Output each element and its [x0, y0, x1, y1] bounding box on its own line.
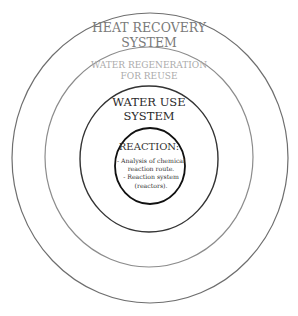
reaction-item-3: - Reaction system — [116, 173, 186, 181]
reaction-item-1: - Analysis of chemical — [116, 157, 186, 165]
heat-recovery-label: HEAT RECOVERY SYSTEM — [0, 20, 298, 50]
heat-recovery-line-2: SYSTEM — [0, 35, 298, 50]
water-regeneration-line-1: WATER REGENERATION — [0, 60, 298, 71]
reaction-items: - Analysis of chemical reaction route. -… — [116, 157, 186, 190]
reaction-item-4: (reactors). — [116, 182, 186, 190]
water-regeneration-line-2: FOR REUSE — [0, 71, 298, 82]
reaction-title: REACTION: — [0, 141, 298, 153]
reaction-item-2: reaction route. — [116, 165, 186, 173]
water-use-line-1: WATER USE — [0, 95, 298, 109]
water-regeneration-label: WATER REGENERATION FOR REUSE — [0, 60, 298, 82]
water-use-label: WATER USE SYSTEM — [0, 95, 298, 123]
heat-recovery-line-1: HEAT RECOVERY — [0, 20, 298, 35]
water-use-line-2: SYSTEM — [0, 109, 298, 123]
